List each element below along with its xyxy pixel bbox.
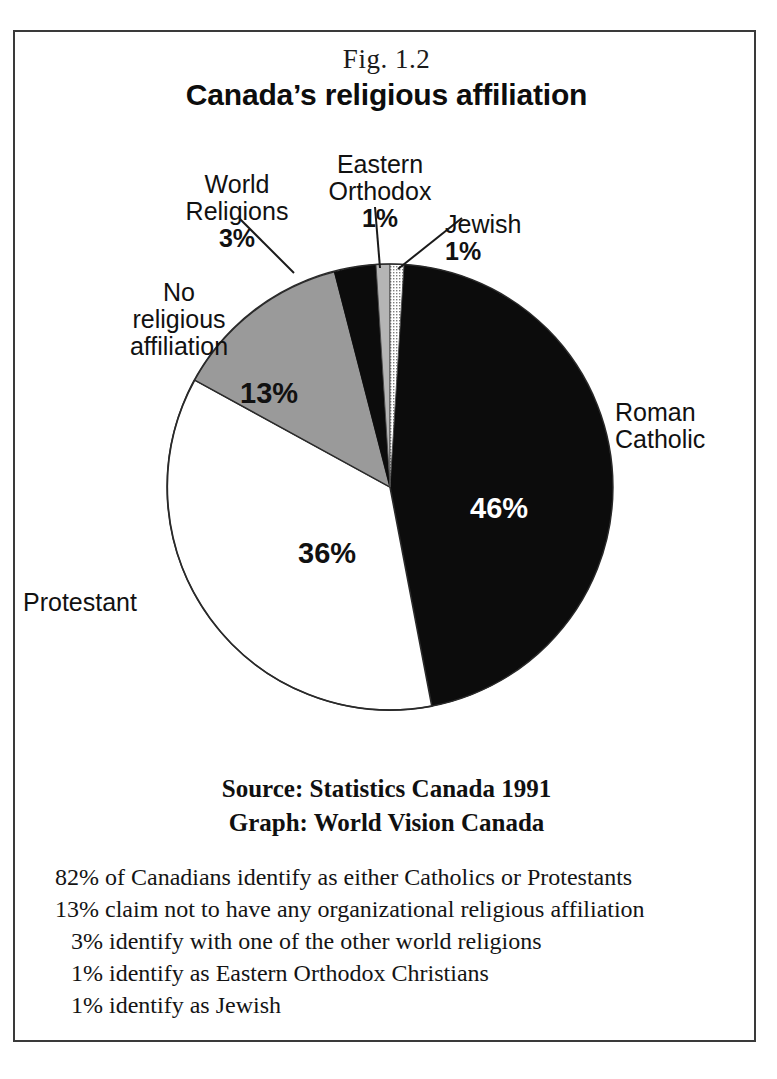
label-world-religions-pct: 3% bbox=[219, 224, 255, 252]
label-world-religions: World Religions 3% bbox=[167, 144, 307, 252]
label-eastern-orthodox: Eastern Orthodox 1% bbox=[305, 124, 455, 232]
label-eastern-orthodox-pct: 1% bbox=[362, 204, 398, 232]
label-protestant-text: Protestant bbox=[23, 588, 137, 616]
pie-slice-roman-catholic bbox=[390, 265, 613, 706]
summary-line: 82% of Canadians identify as either Cath… bbox=[55, 862, 745, 894]
slice-value-protestant: 36% bbox=[298, 537, 356, 570]
summary-line: 13% claim not to have any organizational… bbox=[55, 894, 745, 926]
label-jewish-text: Jewish bbox=[445, 210, 521, 238]
label-roman-catholic: Roman Catholic bbox=[615, 372, 765, 453]
label-no-religious-affiliation: No religious affiliation bbox=[105, 252, 253, 360]
slice-value-roman-catholic: 46% bbox=[470, 492, 528, 525]
source-line-statistics: Source: Statistics Canada 1991 bbox=[15, 772, 758, 806]
figure-frame: Fig. 1.2 Canada’s religious affiliation bbox=[13, 30, 756, 1042]
label-roman-catholic-text: Roman Catholic bbox=[615, 398, 705, 453]
summary-line: 3% identify with one of the other world … bbox=[55, 926, 745, 958]
summary-line: 1% identify as Jewish bbox=[55, 990, 745, 1022]
summary-list: 82% of Canadians identify as either Cath… bbox=[55, 862, 745, 1022]
label-eastern-orthodox-text: Eastern Orthodox bbox=[329, 150, 432, 205]
label-world-religions-text: World Religions bbox=[186, 170, 289, 225]
source-line-graph: Graph: World Vision Canada bbox=[15, 806, 758, 840]
label-jewish: Jewish 1% bbox=[445, 184, 585, 265]
pie-chart: World Religions 3% Eastern Orthodox 1% J… bbox=[15, 32, 758, 762]
label-no-affiliation-text: No religious affiliation bbox=[130, 278, 228, 360]
source-block: Source: Statistics Canada 1991 Graph: Wo… bbox=[15, 772, 758, 840]
label-protestant: Protestant bbox=[23, 562, 183, 616]
summary-line: 1% identify as Eastern Orthodox Christia… bbox=[55, 958, 745, 990]
label-jewish-pct: 1% bbox=[445, 237, 481, 265]
slice-value-no-affiliation: 13% bbox=[240, 377, 298, 410]
